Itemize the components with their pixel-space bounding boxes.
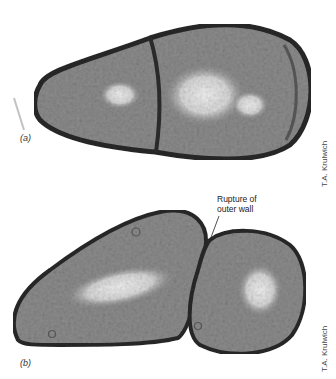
micrograph-illustration: [0, 0, 336, 379]
panel-label-a: (a): [20, 133, 31, 143]
photo-credit-a: T.A. Krulwich: [320, 141, 329, 187]
micrograph-figure: (a) T.A. Krulwich Rupture of outer wall …: [0, 0, 336, 379]
panel-a-cells: [35, 25, 311, 159]
panel-label-b: (b): [20, 358, 31, 368]
annotation-rupture: Rupture of outer wall: [217, 194, 257, 214]
panel-b-cells: [14, 211, 305, 354]
annotation-line-1: Rupture of: [217, 194, 257, 204]
photo-credit-b: T.A. Krulwich: [320, 326, 329, 372]
annotation-line-2: outer wall: [217, 204, 257, 214]
